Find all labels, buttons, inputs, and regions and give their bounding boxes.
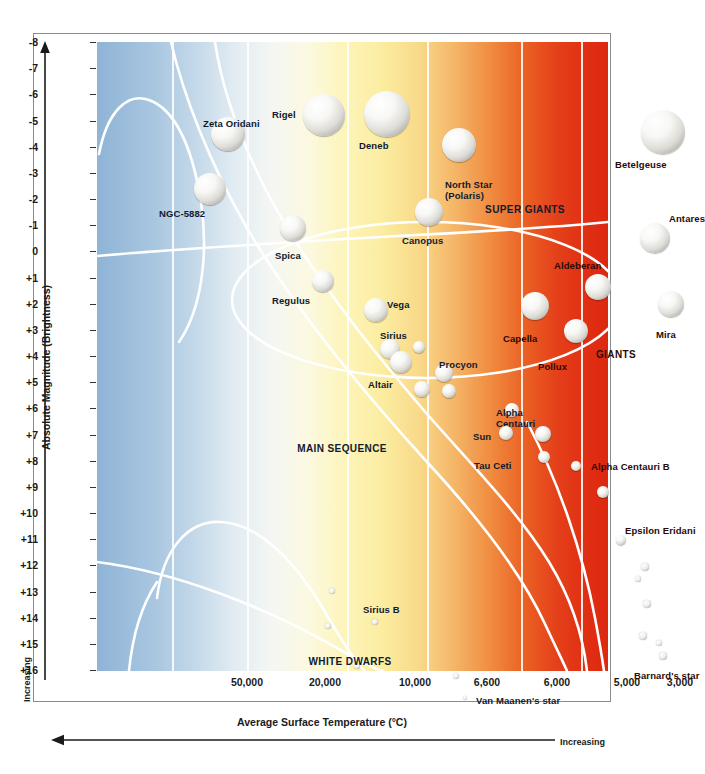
- y-tick-mark: [90, 487, 96, 488]
- y-tick-label: +5: [26, 376, 38, 388]
- y-tick-mark: [90, 565, 96, 566]
- plot-area: [97, 42, 608, 671]
- star-marker: [194, 173, 226, 205]
- star-marker: [585, 274, 611, 300]
- star-marker: [312, 270, 334, 292]
- star-marker-unlabeled: [325, 623, 331, 629]
- star-label: North Star (Polaris): [445, 180, 492, 201]
- y-tick-mark: [90, 42, 96, 43]
- x-tick-label: 6,000: [544, 676, 570, 688]
- y-tick-label: +9: [26, 481, 38, 493]
- x-tick-label: 20,000: [309, 676, 341, 688]
- y-tick-label: 0: [32, 245, 38, 257]
- y-tick-mark: [90, 251, 96, 252]
- x-axis-title: Average Surface Temperature (°C): [33, 716, 611, 728]
- star-marker: [364, 91, 410, 137]
- region-label: SUPER GIANTS: [485, 204, 565, 215]
- star-marker: [415, 198, 443, 226]
- star-label: Aldeberan: [554, 261, 601, 272]
- y-tick-mark: [90, 121, 96, 122]
- y-tick-mark: [90, 147, 96, 148]
- x-tick-label: 6,600: [474, 676, 500, 688]
- y-tick-label: +1: [26, 272, 38, 284]
- star-label: Deneb: [359, 141, 389, 152]
- y-tick-label: +13: [20, 586, 38, 598]
- star-marker-unlabeled: [641, 563, 649, 571]
- region-boundary-curves: [97, 42, 608, 671]
- y-tick-mark: [90, 94, 96, 95]
- y-tick-label: +8: [26, 455, 38, 467]
- y-increasing-label: Increasing: [22, 33, 32, 702]
- y-tick-mark: [90, 68, 96, 69]
- star-label: Barnard's star: [634, 671, 699, 682]
- y-tick-mark: [90, 461, 96, 462]
- star-label: Alpha Centauri B: [591, 462, 670, 473]
- region-label: GIANTS: [596, 349, 636, 360]
- star-marker: [303, 94, 345, 136]
- star-marker: [641, 110, 685, 154]
- y-tick-label: +10: [20, 507, 38, 519]
- y-tick-mark: [90, 539, 96, 540]
- x-increasing-label: Increasing: [560, 737, 605, 747]
- y-tick-label: -6: [29, 88, 38, 100]
- star-marker: [499, 426, 513, 440]
- x-tick-label: 10,000: [399, 676, 431, 688]
- star-label: Tau Ceti: [474, 461, 512, 472]
- star-label: Altair: [368, 380, 393, 391]
- y-tick-label: +2: [26, 298, 38, 310]
- star-marker: [364, 298, 388, 322]
- star-marker-unlabeled: [639, 632, 647, 640]
- star-marker-unlabeled: [413, 341, 425, 353]
- star-marker-unlabeled: [656, 640, 662, 646]
- y-tick-mark: [90, 513, 96, 514]
- y-tick-label: -2: [29, 193, 38, 205]
- star-marker: [571, 461, 581, 471]
- y-tick-mark: [90, 382, 96, 383]
- y-tick-label: -4: [29, 141, 38, 153]
- star-marker-unlabeled: [329, 588, 335, 594]
- y-tick-mark: [90, 408, 96, 409]
- y-tick-label: +16: [20, 664, 38, 676]
- star-marker: [538, 451, 550, 463]
- y-tick-label: -8: [29, 36, 38, 48]
- y-tick-label: +11: [21, 533, 38, 545]
- star-label: Antares: [669, 214, 705, 225]
- star-label: Rigel: [272, 110, 296, 121]
- y-tick-mark: [90, 225, 96, 226]
- star-marker: [390, 351, 412, 373]
- y-tick-mark: [90, 670, 96, 671]
- y-tick-mark: [90, 199, 96, 200]
- star-label: Capella: [503, 334, 538, 345]
- y-tick-mark: [90, 278, 96, 279]
- y-tick-label: +4: [26, 350, 38, 362]
- y-tick-label: +7: [26, 429, 38, 441]
- y-tick-mark: [90, 592, 96, 593]
- star-marker-unlabeled: [414, 381, 430, 397]
- y-tick-mark: [90, 644, 96, 645]
- star-label: Mira: [656, 330, 676, 341]
- star-label: Sirius: [380, 331, 407, 342]
- star-marker-unlabeled: [453, 673, 459, 679]
- star-marker: [616, 535, 626, 545]
- star-label: Epsilon Eridani: [625, 526, 696, 537]
- star-label: Sirius B: [363, 605, 400, 616]
- star-marker: [442, 128, 476, 162]
- y-tick-mark: [90, 435, 96, 436]
- star-label: Van Maanen's star: [476, 696, 560, 707]
- x-tick-label: 50,000: [231, 676, 263, 688]
- star-marker-unlabeled: [643, 600, 651, 608]
- region-label: WHITE DWARFS: [308, 656, 391, 667]
- y-tick-label: -7: [29, 62, 38, 74]
- star-label: Procyon: [439, 360, 478, 371]
- y-tick-mark: [90, 356, 96, 357]
- star-marker: [521, 292, 549, 320]
- star-label: Regulus: [272, 296, 310, 307]
- y-tick-label: -3: [29, 167, 38, 179]
- star-marker: [280, 215, 306, 241]
- y-tick-label: -1: [29, 219, 38, 231]
- star-marker-unlabeled: [442, 384, 456, 398]
- star-marker: [640, 223, 670, 253]
- y-tick-mark: [90, 330, 96, 331]
- star-marker: [564, 319, 588, 343]
